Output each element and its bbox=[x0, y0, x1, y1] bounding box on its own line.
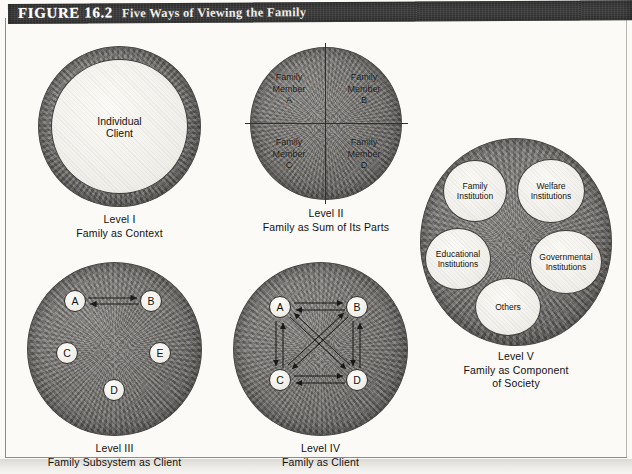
quadrant-d-line1: Family bbox=[328, 137, 400, 149]
level-5-caption-line3: of Society bbox=[420, 377, 612, 391]
level-4-diagram: A B C D Level IV Family as Client bbox=[233, 262, 408, 436]
institution-governmental: Governmental Institutions bbox=[530, 230, 602, 294]
quadrant-c-line2: Member bbox=[253, 149, 325, 161]
institution-welfare: Welfare Institutions bbox=[517, 159, 585, 223]
level-2-quadrant-a: Family Member A bbox=[253, 72, 325, 107]
quadrant-b-line1: Family bbox=[328, 72, 400, 84]
institution-family-line2: Institution bbox=[457, 191, 493, 202]
institution-others-line1: Others bbox=[495, 302, 521, 313]
level-4-caption: Level IV Family as Client bbox=[223, 442, 418, 469]
institution-governmental-line2: Institutions bbox=[539, 262, 592, 273]
institution-welfare-line2: Institutions bbox=[531, 191, 572, 202]
level-3-caption-line2: Family Subsystem as Client bbox=[7, 456, 222, 470]
quadrant-c-line3: C bbox=[253, 160, 325, 172]
level-1-caption-line1: Level I bbox=[28, 213, 211, 227]
individual-client-line1: Individual bbox=[97, 115, 141, 127]
level-4-node-d: D bbox=[346, 369, 368, 391]
level-1-inner-circle: Individual Client bbox=[51, 59, 188, 194]
level-2-caption: Level II Family as Sum of Its Parts bbox=[220, 207, 432, 234]
level-3-diagram: A B C E D Level III Family Subsystem as … bbox=[27, 262, 202, 436]
level-2-quadrant-d: Family Member D bbox=[328, 137, 400, 172]
level-3-caption-line1: Level III bbox=[7, 442, 222, 456]
level-2-quadrant-c: Family Member C bbox=[253, 137, 325, 172]
individual-client-line2: Client bbox=[97, 127, 141, 139]
figure-title: Five Ways of Viewing the Family bbox=[122, 5, 307, 21]
quadrant-b-line2: Member bbox=[328, 84, 400, 96]
level-4-node-b: B bbox=[346, 296, 368, 318]
level-1-diagram: Individual Client Level I Family as Cont… bbox=[38, 46, 201, 207]
institution-educational: Educational Institutions bbox=[425, 228, 491, 290]
institution-family-line1: Family bbox=[457, 181, 493, 192]
figure-number-label: FIGURE 16.2 bbox=[18, 4, 113, 22]
quadrant-b-line3: B bbox=[328, 95, 400, 107]
level-2-horizontal-divider bbox=[245, 123, 408, 124]
quadrant-d-line2: Member bbox=[328, 149, 400, 161]
figure-header-bar: FIGURE 16.2 Five Ways of Viewing the Fam… bbox=[8, 0, 632, 24]
institution-welfare-line1: Welfare bbox=[531, 181, 572, 192]
institution-educational-line2: Institutions bbox=[436, 259, 480, 270]
quadrant-a-line1: Family bbox=[253, 72, 325, 84]
level-2-caption-line2: Family as Sum of Its Parts bbox=[220, 221, 432, 235]
page-border-right bbox=[626, 18, 627, 458]
level-4-caption-line1: Level IV bbox=[223, 442, 418, 456]
level-1-caption: Level I Family as Context bbox=[28, 213, 211, 240]
level-5-diagram: Family Institution Welfare Institutions … bbox=[420, 138, 612, 346]
institution-governmental-line1: Governmental bbox=[539, 252, 592, 263]
institution-family: Family Institution bbox=[443, 160, 507, 222]
level-4-node-a: A bbox=[269, 296, 291, 318]
level-3-node-e: E bbox=[149, 342, 171, 364]
quadrant-a-line3: A bbox=[253, 95, 325, 107]
level-2-caption-line1: Level II bbox=[220, 207, 432, 221]
level-2-diagram: Family Member A Family Member B Family M… bbox=[250, 47, 402, 200]
level-5-caption-line2: Family as Component bbox=[420, 364, 612, 378]
level-3-node-a: A bbox=[64, 290, 86, 312]
level-4-connection-arrows bbox=[233, 262, 408, 436]
level-5-caption: Level V Family as Component of Society bbox=[420, 350, 612, 391]
quadrant-d-line3: D bbox=[328, 160, 400, 172]
quadrant-c-line1: Family bbox=[253, 137, 325, 149]
figure-header-content: FIGURE 16.2 Five Ways of Viewing the Fam… bbox=[18, 3, 306, 22]
level-3-node-d: D bbox=[103, 379, 125, 401]
level-1-caption-line2: Family as Context bbox=[28, 227, 211, 241]
level-3-caption: Level III Family Subsystem as Client bbox=[7, 442, 222, 469]
institution-others: Others bbox=[475, 278, 541, 336]
level-3-connection-arrows bbox=[27, 262, 202, 436]
level-2-quadrant-b: Family Member B bbox=[328, 72, 400, 107]
level-4-caption-line2: Family as Client bbox=[223, 456, 418, 470]
level-3-node-b: B bbox=[140, 290, 162, 312]
page-border-left bbox=[5, 18, 6, 458]
level-5-caption-line1: Level V bbox=[420, 350, 612, 364]
figure-container: FIGURE 16.2 Five Ways of Viewing the Fam… bbox=[0, 0, 632, 474]
level-3-node-c: C bbox=[56, 342, 78, 364]
institution-educational-line1: Educational bbox=[436, 249, 480, 260]
quadrant-a-line2: Member bbox=[253, 84, 325, 96]
level-4-node-c: C bbox=[269, 369, 291, 391]
